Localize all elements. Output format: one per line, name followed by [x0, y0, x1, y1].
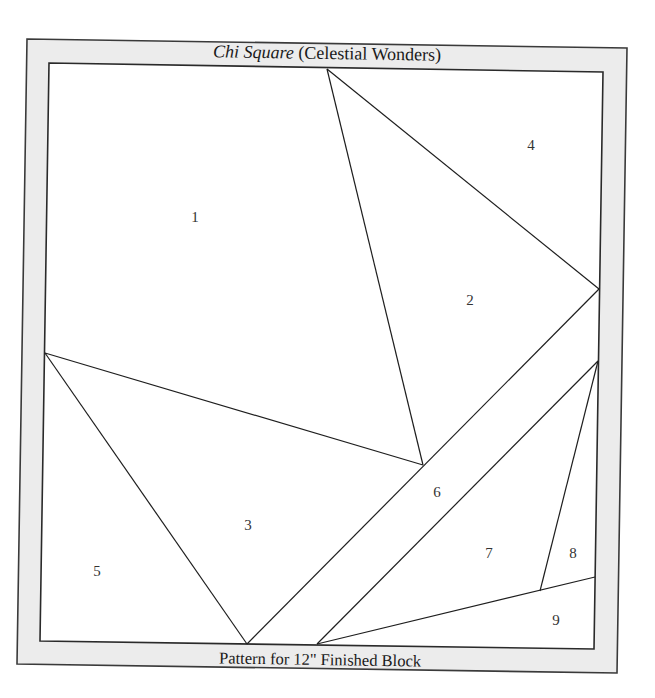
piece-label-9: 9: [552, 612, 560, 628]
title-italic: Chi Square: [213, 41, 294, 62]
piece-label-2: 2: [466, 292, 474, 308]
piece-label-7: 7: [485, 545, 493, 561]
block-area: [40, 63, 603, 649]
quilt-pattern-diagram: Chi Square (Celestial Wonders) Pattern f…: [0, 0, 655, 698]
piece-label-6: 6: [433, 484, 441, 500]
piece-label-8: 8: [569, 545, 577, 561]
title-rest: (Celestial Wonders): [294, 43, 441, 66]
pattern-footer: Pattern for 12" Finished Block: [219, 648, 422, 670]
piece-label-4: 4: [527, 137, 535, 153]
piece-label-1: 1: [191, 209, 199, 225]
piece-label-5: 5: [93, 563, 101, 579]
piece-label-3: 3: [244, 517, 252, 533]
